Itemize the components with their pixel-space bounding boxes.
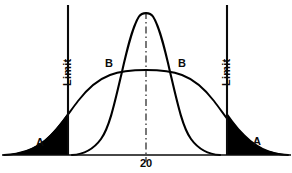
curve-label-b-left: B bbox=[105, 58, 113, 69]
tail-fill-left bbox=[4, 113, 68, 155]
curve-label-b-right: B bbox=[178, 58, 186, 69]
curve-label-a-right: A bbox=[253, 136, 261, 147]
limit-label-left: Limit bbox=[62, 59, 73, 86]
curve-label-a-left: A bbox=[36, 137, 44, 148]
limit-label-right: Limit bbox=[221, 59, 232, 86]
distribution-capability-chart: Limit Limit A A B B 20 bbox=[0, 0, 292, 173]
x-axis-center-tick-label: 20 bbox=[140, 158, 152, 169]
